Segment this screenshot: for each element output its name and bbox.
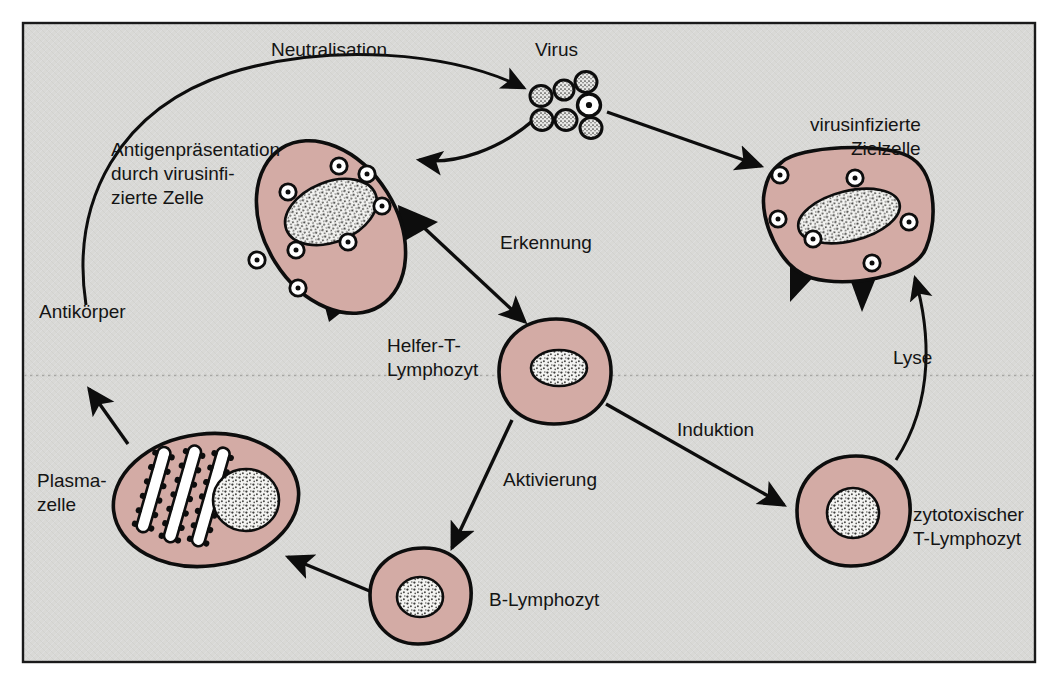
nucleus (213, 469, 279, 531)
label-erkennung: Erkennung (500, 232, 592, 253)
svg-text:zierte Zelle: zierte Zelle (111, 187, 204, 208)
svg-text:T-Lymphozyt: T-Lymphozyt (913, 528, 1022, 549)
label-aktivierung: Aktivierung (503, 469, 597, 490)
cell-cytotoxic-t (797, 456, 910, 566)
nucleus (531, 350, 587, 386)
svg-text:Lymphozyt: Lymphozyt (387, 359, 479, 380)
nucleus (827, 488, 879, 538)
svg-text:durch virusinfi-: durch virusinfi- (111, 163, 235, 184)
svg-text:zelle: zelle (37, 494, 76, 515)
cell-helper-t (499, 319, 611, 424)
immune-response-diagram: Neutralisation Virus Antigenpräsentation… (0, 0, 1060, 685)
cell-b-lymphocyte (370, 548, 471, 644)
svg-text:zytotoxischer: zytotoxischer (913, 504, 1025, 525)
nucleus (397, 577, 443, 617)
label-induktion: Induktion (677, 419, 754, 440)
figure-root: Neutralisation Virus Antigenpräsentation… (0, 0, 1060, 685)
label-virus: Virus (535, 39, 578, 60)
label-lyse: Lyse (893, 347, 932, 368)
svg-text:Plasma-: Plasma- (37, 470, 107, 491)
svg-text:Helfer-T-: Helfer-T- (387, 335, 461, 356)
svg-text:virusinfizierte: virusinfizierte (810, 114, 921, 135)
label-neutralisation: Neutralisation (271, 39, 387, 60)
svg-text:Antigenpräsentation: Antigenpräsentation (111, 139, 280, 160)
svg-text:Zielzelle: Zielzelle (851, 138, 921, 159)
virus-particle-highlighted (578, 94, 601, 116)
label-antikoerper: Antikörper (39, 301, 126, 322)
label-b-lymphocyte: B-Lymphozyt (489, 589, 600, 610)
